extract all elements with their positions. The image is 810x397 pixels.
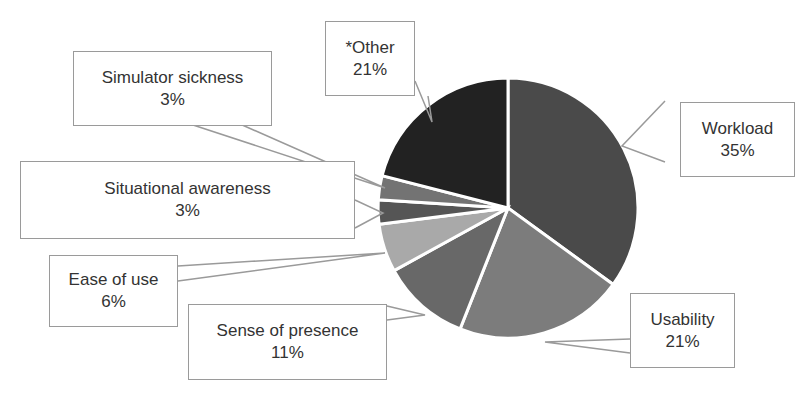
leader-presence — [387, 306, 425, 320]
label-simulator-sickness: Simulator sickness 3% — [73, 51, 272, 126]
label-sense-of-presence: Sense of presence 11% — [188, 304, 387, 380]
label-presence-pct: 11% — [189, 342, 386, 364]
label-workload-name: Workload — [681, 118, 794, 140]
label-workload: Workload 35% — [680, 102, 795, 177]
label-situational-awareness: Situational awareness 3% — [20, 161, 355, 239]
label-workload-pct: 35% — [681, 140, 794, 162]
label-sickness-name: Simulator sickness — [74, 67, 271, 89]
label-usability-name: Usability — [631, 309, 734, 331]
label-usability-pct: 21% — [631, 331, 734, 353]
label-ease-pct: 6% — [50, 291, 177, 313]
leader-usability — [545, 339, 630, 353]
label-presence-name: Sense of presence — [189, 320, 386, 342]
label-usability: Usability 21% — [630, 293, 735, 368]
label-situational-name: Situational awareness — [21, 178, 354, 200]
label-other-pct: 21% — [326, 59, 414, 81]
label-ease-of-use: Ease of use 6% — [49, 255, 178, 327]
label-sickness-pct: 3% — [74, 89, 271, 111]
label-other: *Other 21% — [325, 21, 415, 96]
label-other-name: *Other — [326, 37, 414, 59]
label-situational-pct: 3% — [21, 200, 354, 222]
pie-slices — [378, 78, 638, 338]
leader-ease — [178, 253, 385, 281]
label-ease-name: Ease of use — [50, 269, 177, 291]
leader-workload — [622, 101, 665, 162]
